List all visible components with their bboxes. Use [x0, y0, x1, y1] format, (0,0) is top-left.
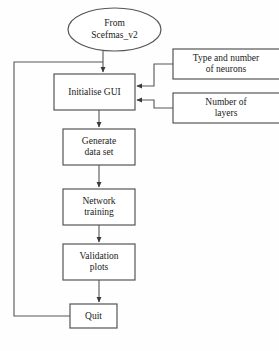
flowchart-svg: [0, 0, 279, 351]
node-validation-plots-shape: [63, 244, 135, 280]
node-initialise-gui-shape: [54, 74, 135, 110]
node-start-shape: [68, 8, 161, 51]
edge-neurons-to-initialise: [137, 64, 173, 86]
node-type-and-number-of-neurons-shape: [173, 49, 279, 79]
node-number-of-layers-shape: [173, 93, 279, 123]
edge-layers-to-initialise: [137, 100, 173, 108]
node-quit-shape: [70, 304, 117, 328]
node-network-training-shape: [63, 189, 135, 225]
node-generate-data-set-shape: [63, 129, 135, 165]
flowchart-canvas: From Scefmas_v2 Initialise GUI Type and …: [0, 0, 279, 351]
